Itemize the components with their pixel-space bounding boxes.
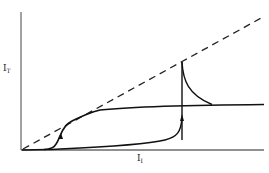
y-axis-label: IT [3,63,11,74]
up-arrow-icon [180,114,184,121]
decay-curve [182,62,212,105]
x-axis-label: II [137,153,143,164]
diagonal-dashed-line [23,17,263,149]
hysteresis-diagram: IT II [0,0,269,173]
